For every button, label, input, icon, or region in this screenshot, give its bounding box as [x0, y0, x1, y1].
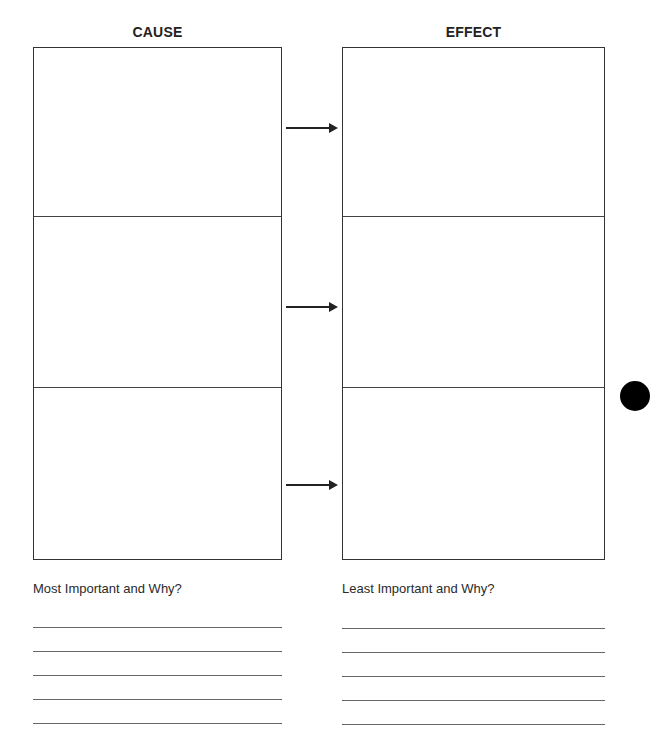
- effect-divider: [343, 387, 604, 388]
- arrow-right-icon: [286, 480, 338, 490]
- most-important-prompt: Most Important and Why?: [33, 581, 182, 596]
- least-important-line[interactable]: [342, 652, 605, 653]
- cause-box-3[interactable]: [34, 389, 281, 559]
- effect-box-2[interactable]: [343, 218, 604, 388]
- binder-hole-icon: [620, 381, 650, 411]
- effect-box-3[interactable]: [343, 389, 604, 559]
- cause-box-1[interactable]: [34, 48, 281, 217]
- most-important-line[interactable]: [33, 723, 282, 724]
- least-important-line[interactable]: [342, 628, 605, 629]
- effect-divider: [343, 216, 604, 217]
- cause-divider: [34, 216, 281, 217]
- arrow-right-icon: [286, 123, 338, 133]
- effect-heading: EFFECT: [342, 24, 605, 40]
- least-important-line[interactable]: [342, 724, 605, 725]
- least-important-line[interactable]: [342, 676, 605, 677]
- most-important-line[interactable]: [33, 675, 282, 676]
- cause-box-2[interactable]: [34, 218, 281, 388]
- cause-heading: CAUSE: [33, 24, 282, 40]
- most-important-line[interactable]: [33, 699, 282, 700]
- cause-divider: [34, 387, 281, 388]
- arrow-right-icon: [286, 302, 338, 312]
- most-important-line[interactable]: [33, 627, 282, 628]
- effect-box-1[interactable]: [343, 48, 604, 217]
- most-important-line[interactable]: [33, 651, 282, 652]
- least-important-line[interactable]: [342, 700, 605, 701]
- cause-column: [33, 47, 282, 560]
- least-important-prompt: Least Important and Why?: [342, 581, 494, 596]
- effect-column: [342, 47, 605, 560]
